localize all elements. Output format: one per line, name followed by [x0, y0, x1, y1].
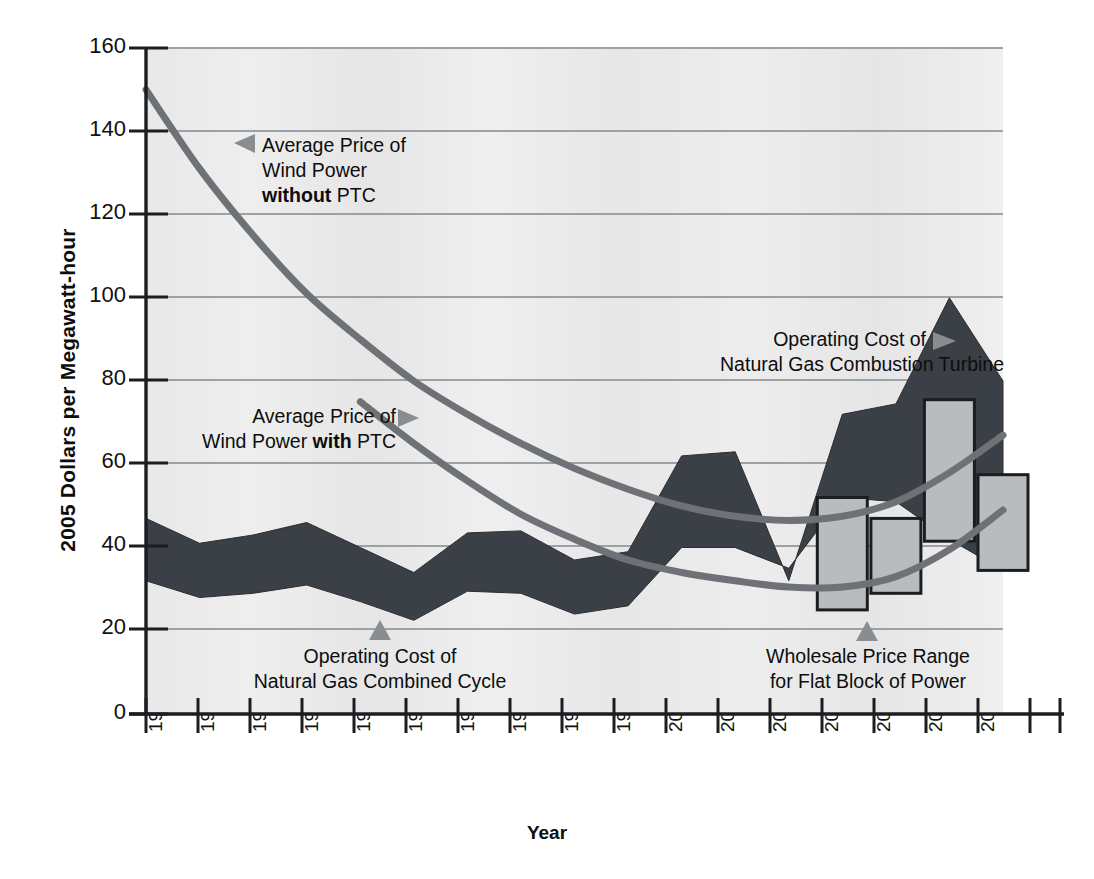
annotation-line-1: Operating Cost of	[608, 327, 926, 352]
annotation-line-2: Wind Power	[262, 158, 406, 183]
annotation-line-2: for Flat Block of Power	[722, 669, 1014, 694]
annotation-line-1: Average Price of	[262, 133, 406, 158]
annotation-line-2-text: Natural Gas Combustion Turbine	[720, 353, 1004, 375]
annotation-ptc-suffix: PTC	[352, 430, 396, 452]
annotation-wind-without-ptc: Average Price of Wind Power without PTC	[262, 133, 406, 208]
annotation-bold-without: without	[262, 184, 331, 206]
annotation-bold-with: with	[313, 430, 352, 452]
annotation-ptc-suffix: PTC	[331, 184, 375, 206]
annotation-combined-cycle: Operating Cost of Natural Gas Combined C…	[230, 644, 530, 694]
annotation-line-3: without PTC	[262, 183, 406, 208]
annotation-wholesale-range: Wholesale Price Range for Flat Block of …	[722, 644, 1014, 694]
annotation-combustion-turbine: Operating Cost of Natural Gas Combustion…	[608, 327, 926, 377]
chart-root: 2005 Dollars per Megawatt-hour Year 160 …	[0, 0, 1094, 879]
annotation-line-2: Wind Power with PTC	[128, 429, 396, 454]
annotation-wind-with-ptc: Average Price of Wind Power with PTC	[128, 404, 396, 454]
annotation-line-1: Average Price of	[128, 404, 396, 429]
annotation-line-1: Operating Cost of	[230, 644, 530, 669]
annotation-wind-power-text: Wind Power	[202, 430, 313, 452]
annotation-line-2: Natural Gas Combined Cycle	[230, 669, 530, 694]
annotation-line-1: Wholesale Price Range	[722, 644, 1014, 669]
annotation-line-2: Natural Gas Combustion Turbine	[608, 352, 1004, 377]
